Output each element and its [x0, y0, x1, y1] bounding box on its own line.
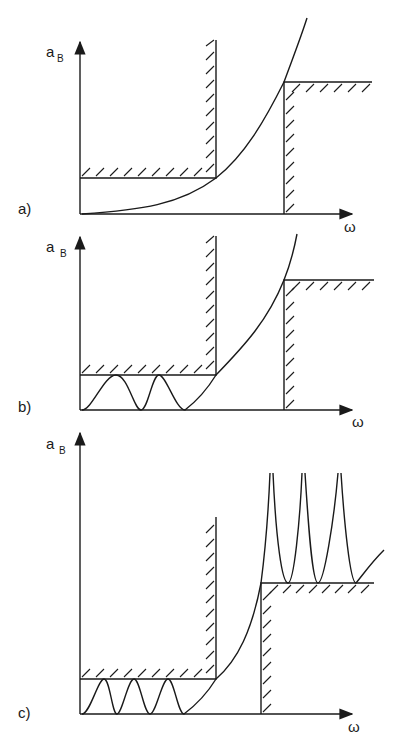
filter-attenuation-diagram: a B ω a) — [0, 0, 399, 749]
elliptic-attenuation-curve-passband — [82, 473, 270, 714]
passband-hatching — [82, 236, 214, 373]
stopband-hatching — [263, 585, 369, 712]
passband-hatching — [82, 40, 214, 176]
x-axis-label: ω — [344, 218, 356, 235]
passband-hatching — [82, 525, 214, 677]
panel-c: a B ω c) — [18, 433, 384, 735]
y-axis-subscript: B — [60, 248, 67, 259]
passband-tolerance — [80, 517, 216, 679]
stopband-hatching — [286, 84, 370, 212]
attenuation-curve — [82, 18, 307, 214]
y-axis-label: a — [46, 435, 55, 452]
panel-b: a B ω b) — [18, 234, 374, 430]
stopband-tolerance — [284, 82, 372, 214]
stopband-hatching — [286, 282, 370, 408]
stopband-tolerance — [284, 280, 374, 410]
passband-tolerance — [80, 40, 216, 178]
y-axis-label: a — [46, 238, 55, 255]
panel-a: a B ω a) — [18, 18, 372, 235]
chebyshev-attenuation-curve — [82, 234, 297, 410]
y-axis-subscript: B — [57, 53, 64, 64]
x-axis-label: ω — [348, 718, 360, 735]
y-axis-subscript: B — [59, 445, 66, 456]
panel-label: b) — [18, 398, 31, 415]
panel-label: c) — [18, 704, 31, 721]
elliptic-attenuation-curve-stopband — [273, 473, 384, 583]
x-axis-label: ω — [352, 413, 364, 430]
panel-label: a) — [18, 200, 31, 217]
stopband-tolerance — [261, 583, 374, 714]
passband-tolerance — [80, 236, 216, 375]
y-axis-label: a — [46, 43, 55, 60]
